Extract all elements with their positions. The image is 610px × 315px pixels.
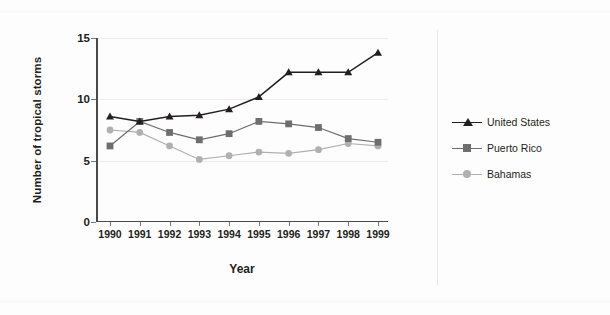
- y-tick-label: 10: [77, 93, 90, 105]
- legend-label-united-states: United States: [487, 116, 550, 128]
- x-tick: [348, 222, 349, 226]
- legend-marker-circle: [463, 170, 471, 178]
- y-tick-label: 15: [77, 32, 90, 44]
- x-tick: [110, 222, 111, 226]
- x-tick-label: 1996: [277, 228, 300, 240]
- x-tick-label: 1998: [337, 228, 360, 240]
- x-tick: [259, 222, 260, 226]
- x-tick: [199, 222, 200, 226]
- legend-marker-triangle: [463, 118, 473, 126]
- legend-label-bahamas: Bahamas: [487, 168, 531, 180]
- x-tick: [140, 222, 141, 226]
- legend-item-puerto-rico[interactable]: Puerto Rico: [452, 138, 602, 158]
- y-tick-label: 5: [84, 155, 90, 167]
- legend-label-puerto-rico: Puerto Rico: [487, 142, 542, 154]
- y-axis-title: Number of tropical storms: [26, 38, 48, 222]
- legend-key-bahamas: [452, 167, 482, 181]
- x-tick-label: 1991: [128, 228, 151, 240]
- x-axis-tick-labels: 1990199119921993199419951996199719981999: [96, 228, 388, 244]
- x-axis-title: Year: [96, 262, 388, 276]
- x-tick-label: 1994: [217, 228, 240, 240]
- legend-divider: [437, 30, 438, 285]
- series-united-states: [106, 49, 382, 125]
- legend-key-puerto-rico: [452, 141, 482, 155]
- y-tick: [91, 222, 96, 223]
- legend: United States Puerto Rico Bahamas: [452, 112, 602, 190]
- legend-key-united-states: [452, 115, 482, 129]
- legend-marker-square: [463, 144, 471, 152]
- legend-item-united-states[interactable]: United States: [452, 112, 602, 132]
- x-tick: [318, 222, 319, 226]
- plot-area: [96, 38, 388, 222]
- series-bahamas: [107, 127, 382, 163]
- x-tick: [229, 222, 230, 226]
- x-tick: [170, 222, 171, 226]
- series-plot: [96, 38, 388, 222]
- x-tick-label: 1997: [307, 228, 330, 240]
- x-tick-label: 1999: [366, 228, 389, 240]
- x-tick-label: 1990: [98, 228, 121, 240]
- x-tick-label: 1992: [158, 228, 181, 240]
- y-tick-label: 0: [84, 216, 90, 228]
- x-tick: [289, 222, 290, 226]
- x-tick-label: 1995: [247, 228, 270, 240]
- legend-item-bahamas[interactable]: Bahamas: [452, 164, 602, 184]
- y-axis-tick-labels: 051015: [66, 38, 90, 222]
- chart-canvas: Number of tropical storms 051015 1990199…: [0, 0, 610, 315]
- x-tick: [378, 222, 379, 226]
- x-tick-label: 1993: [188, 228, 211, 240]
